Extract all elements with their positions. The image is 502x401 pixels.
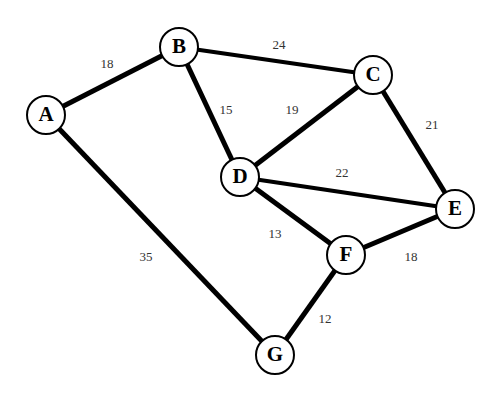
- edge-weight-e-f: 18: [405, 249, 418, 264]
- node-g: G: [256, 336, 294, 374]
- edge-a-g: [46, 115, 275, 355]
- edges-layer: [46, 47, 455, 355]
- edge-weight-a-g: 35: [140, 249, 153, 264]
- node-b: B: [160, 28, 198, 66]
- node-label: E: [448, 196, 462, 220]
- node-label: B: [172, 34, 186, 58]
- edge-weight-a-b: 18: [101, 56, 114, 71]
- node-label: C: [365, 62, 380, 86]
- node-label: G: [267, 342, 283, 366]
- node-label: D: [232, 164, 247, 188]
- node-e: E: [436, 190, 474, 228]
- edge-weight-c-e: 21: [426, 117, 439, 132]
- edge-weight-f-g: 12: [319, 311, 332, 326]
- node-d: D: [221, 158, 259, 196]
- node-label: A: [38, 102, 54, 126]
- edge-weight-b-c: 24: [273, 37, 287, 52]
- edge-c-d: [240, 75, 373, 177]
- node-label: F: [340, 242, 353, 266]
- node-c: C: [354, 56, 392, 94]
- weighted-graph: 18241519212213181235 ABCDEFG: [0, 0, 502, 401]
- edge-weight-b-d: 15: [220, 102, 233, 117]
- edge-d-e: [240, 177, 455, 209]
- node-a: A: [27, 96, 65, 134]
- edge-weight-d-f: 13: [269, 226, 282, 241]
- edge-weight-d-e: 22: [336, 165, 349, 180]
- edge-weight-c-d: 19: [286, 102, 299, 117]
- node-f: F: [327, 236, 365, 274]
- edge-c-e: [373, 75, 455, 209]
